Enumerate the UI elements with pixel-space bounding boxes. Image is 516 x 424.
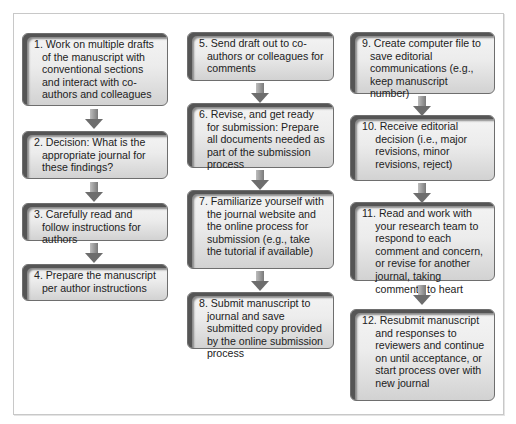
step-5-box: 5. Send draft out to co-authors or colle… (187, 32, 334, 81)
step-7-box: 7. Familiarize yourself with the journal… (187, 190, 334, 269)
step-7-text: 7. Familiarize yourself with the journal… (199, 195, 327, 258)
arrow-down-icon (415, 285, 429, 305)
step-4-text: 4. Prepare the manuscript per author ins… (34, 269, 161, 294)
arrow-down-icon (87, 182, 101, 202)
step-2-box: 2. Decision: What is the appropriate jou… (22, 131, 168, 179)
step-10-box: 10. Receive editorial decision (i.e., ma… (350, 115, 495, 181)
step-3-box: 3. Carefully read and follow instruction… (22, 203, 168, 241)
step-3-text: 3. Carefully read and follow instruction… (34, 208, 161, 246)
arrow-down-icon (253, 83, 267, 103)
arrow-down-icon (253, 170, 267, 190)
step-8-text: 8. Submit manuscript to journal and save… (199, 297, 327, 360)
step-8-box: 8. Submit manuscript to journal and save… (187, 292, 334, 349)
step-1-text: 1. Work on multiple drafts of the manusc… (34, 38, 161, 101)
arrow-down-icon (253, 271, 267, 291)
step-11-box: 11. Read and work with your research tea… (350, 202, 495, 281)
step-6-text: 6. Revise, and get ready for submission:… (199, 108, 327, 171)
step-12-box: 12. Resubmit manuscript and responses to… (350, 309, 495, 401)
arrow-down-icon (87, 109, 101, 129)
step-9-text: 9. Create computer file to save editoria… (362, 37, 488, 100)
arrow-down-icon (415, 183, 429, 203)
step-5-text: 5. Send draft out to co-authors or colle… (199, 37, 327, 75)
step-6-box: 6. Revise, and get ready for submission:… (187, 103, 334, 168)
step-9-box: 9. Create computer file to save editoria… (350, 32, 495, 94)
step-2-text: 2. Decision: What is the appropriate jou… (34, 136, 161, 174)
step-4-box: 4. Prepare the manuscript per author ins… (22, 264, 168, 301)
step-1-box: 1. Work on multiple drafts of the manusc… (22, 33, 168, 106)
step-11-text: 11. Read and work with your research tea… (362, 207, 488, 295)
arrow-down-icon (415, 96, 429, 116)
step-10-text: 10. Receive editorial decision (i.e., ma… (362, 120, 488, 170)
arrow-down-icon (87, 243, 101, 263)
step-12-text: 12. Resubmit manuscript and responses to… (362, 314, 488, 390)
